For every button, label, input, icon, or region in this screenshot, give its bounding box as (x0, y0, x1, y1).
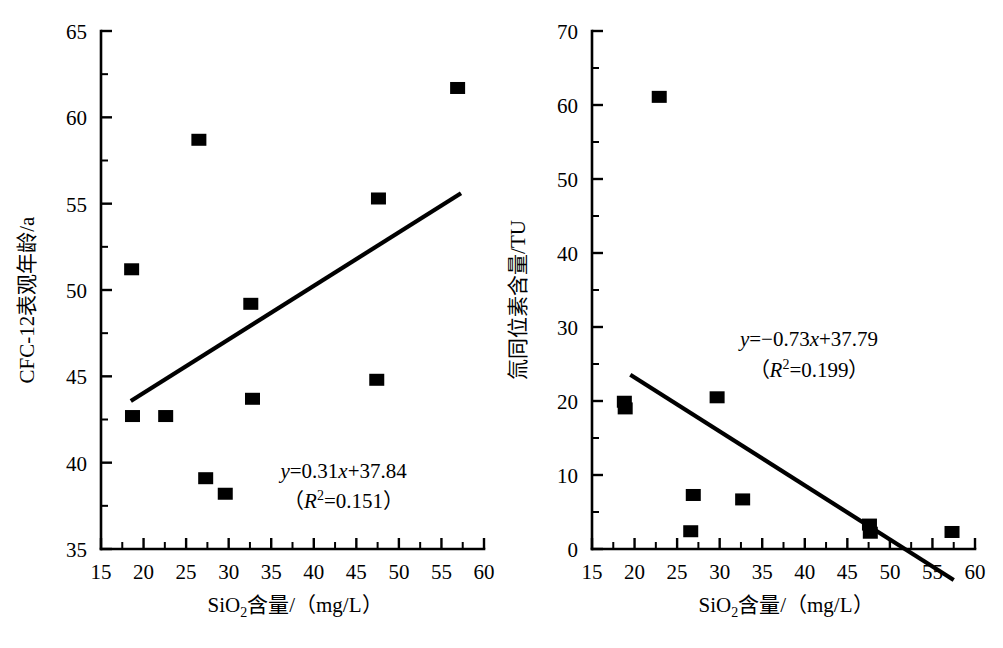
data-point-marker (218, 488, 233, 500)
x-tick-label: 20 (133, 560, 154, 584)
right-panel-svg: 01020304050607015202530354045505560 SiO2… (501, 0, 1002, 648)
y-tick-label: 40 (66, 452, 87, 476)
x-tick-label: 40 (794, 560, 815, 584)
x-tick-label: 45 (837, 560, 858, 584)
x-tick-label: 25 (176, 560, 197, 584)
data-point-marker (683, 525, 698, 537)
left-x-axis-title: SiO2含量/（mg/L） (207, 593, 382, 620)
y-tick-label: 50 (66, 279, 87, 303)
y-tick-label: 0 (568, 538, 579, 562)
y-tick-label: 30 (557, 316, 578, 340)
x-tick-label: 35 (261, 560, 282, 584)
y-tick-label: 50 (557, 168, 578, 192)
data-point-marker (686, 489, 701, 501)
panel-cfc12-age: 3540455055606515202530354045505560 SiO2含… (0, 0, 501, 648)
data-point-marker (618, 402, 633, 414)
data-point-marker (652, 91, 667, 103)
left-trendline-group (131, 193, 461, 401)
x-tick-label: 35 (752, 560, 773, 584)
x-tick-label: 55 (431, 560, 452, 584)
y-tick-label: 35 (66, 538, 87, 562)
x-tick-label: 40 (303, 560, 324, 584)
left-tick-labels-group: 3540455055606515202530354045505560 (66, 20, 495, 584)
x-tick-label: 20 (624, 560, 645, 584)
y-tick-label: 65 (66, 20, 87, 44)
trendline (131, 193, 461, 401)
x-tick-label: 25 (667, 560, 688, 584)
x-tick-label: 45 (346, 560, 367, 584)
right-trendline-equation: y=−0.73x+37.79 (738, 327, 878, 351)
x-tick-label: 30 (709, 560, 730, 584)
data-point-marker (191, 134, 206, 146)
y-tick-label: 40 (557, 242, 578, 266)
y-tick-label: 45 (66, 365, 87, 389)
x-tick-label: 15 (91, 560, 112, 584)
data-point-marker (369, 374, 384, 386)
left-panel-svg: 3540455055606515202530354045505560 SiO2含… (0, 0, 501, 648)
right-y-axis-title: 氚同位素含量/TU (506, 220, 530, 380)
data-point-marker (735, 493, 750, 505)
data-point-marker (243, 298, 258, 310)
data-point-marker (863, 527, 878, 539)
y-tick-label: 60 (66, 106, 87, 130)
x-tick-label: 15 (582, 560, 603, 584)
right-tick-labels-group: 01020304050607015202530354045505560 (557, 20, 986, 584)
y-tick-label: 55 (66, 193, 87, 217)
right-trendline-r2: （R2=0.199） (749, 357, 870, 382)
x-tick-label: 30 (218, 560, 239, 584)
y-tick-label: 70 (557, 20, 578, 44)
two-panel-scatter-figure: 3540455055606515202530354045505560 SiO2含… (0, 0, 1003, 648)
panel-tritium-content: 01020304050607015202530354045505560 SiO2… (501, 0, 1002, 648)
data-point-marker (450, 82, 465, 94)
data-point-marker (198, 472, 213, 484)
x-tick-label: 50 (388, 560, 409, 584)
x-tick-label: 50 (879, 560, 900, 584)
y-tick-label: 10 (557, 464, 578, 488)
left-trendline-equation: y=0.31x+37.84 (278, 459, 407, 483)
x-tick-label: 60 (965, 560, 986, 584)
right-x-axis-title: SiO2含量/（mg/L） (698, 593, 873, 620)
y-tick-label: 20 (557, 390, 578, 414)
data-point-marker (371, 192, 386, 204)
data-point-marker (945, 526, 960, 538)
data-point-marker (125, 410, 140, 422)
x-tick-label: 60 (474, 560, 495, 584)
data-point-marker (710, 391, 725, 403)
right-data-points-group (617, 91, 960, 539)
data-point-marker (158, 410, 173, 422)
left-trendline-r2: （R2=0.151） (283, 488, 404, 513)
data-point-marker (245, 393, 260, 405)
left-data-points-group (124, 82, 465, 500)
left-y-axis-title: CFC-12表观年龄/a (15, 216, 39, 384)
y-tick-label: 60 (557, 94, 578, 118)
data-point-marker (124, 263, 139, 275)
